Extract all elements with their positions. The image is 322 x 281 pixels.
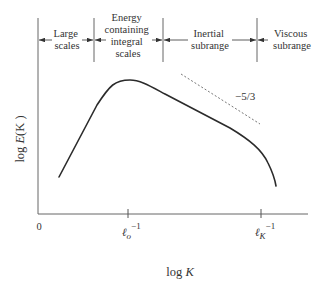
origin-label: 0 (36, 221, 41, 232)
region-label-large: Large scales (54, 28, 81, 51)
spectrum-diagram: Large scales Energy containing integral … (0, 0, 322, 281)
region-label-viscous: Viscous subrange (273, 28, 311, 51)
region-label-energy: Energy containing integral scales (105, 12, 152, 59)
slope-label: −5/3 (235, 90, 256, 102)
x-tick-label-l0: ℓo−1 (122, 221, 141, 241)
x-tick-label-lK: ℓK−1 (255, 221, 275, 241)
y-axis-label: log E(K ) (13, 115, 27, 162)
region-label-inertial: Inertial subrange (191, 28, 229, 51)
x-axis-label: log K (166, 265, 194, 279)
